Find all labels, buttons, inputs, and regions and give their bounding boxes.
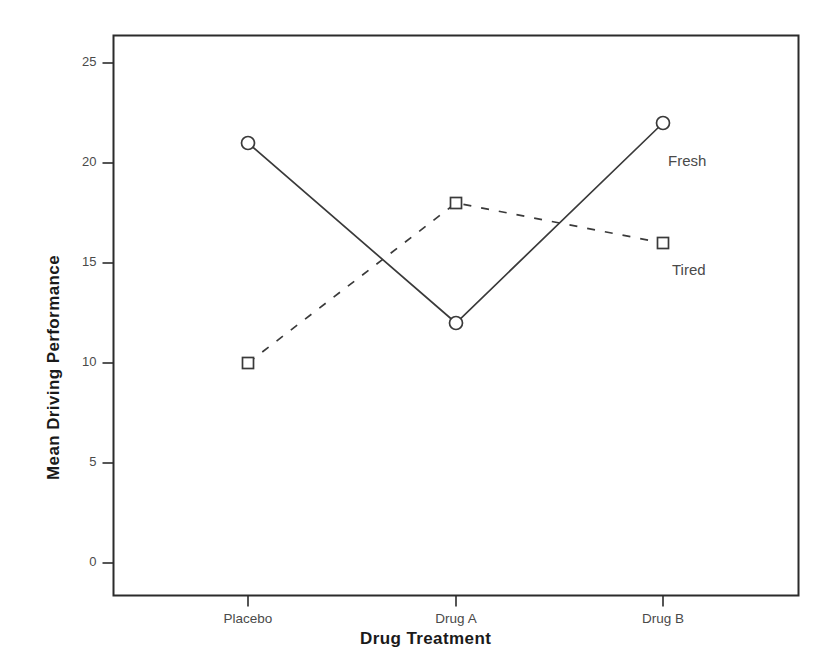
line-chart: Mean Driving Performance Drug Treatment … — [0, 0, 838, 669]
data-point-fresh-drug-b — [657, 117, 670, 130]
series-line-fresh — [248, 123, 663, 323]
x-tick-label: Drug A — [396, 611, 516, 626]
data-point-tired-placebo — [243, 358, 254, 369]
data-point-tired-drug-b — [658, 238, 669, 249]
x-tick-marks — [248, 596, 663, 607]
y-tick-marks — [103, 63, 114, 563]
series-label-fresh: Fresh — [668, 152, 706, 169]
y-tick-label: 0 — [57, 554, 97, 569]
y-tick-label: 5 — [57, 454, 97, 469]
series-line-tired — [248, 203, 663, 363]
series-markers — [242, 117, 670, 369]
plot-frame — [114, 36, 799, 596]
plot-area — [0, 0, 838, 669]
x-tick-label: Placebo — [188, 611, 308, 626]
y-tick-label: 10 — [57, 354, 97, 369]
y-tick-label: 15 — [57, 254, 97, 269]
x-tick-label: Drug B — [603, 611, 723, 626]
data-point-tired-drug-a — [451, 198, 462, 209]
data-point-fresh-placebo — [242, 137, 255, 150]
data-point-fresh-drug-a — [450, 317, 463, 330]
y-tick-label: 20 — [57, 154, 97, 169]
y-tick-label: 25 — [57, 54, 97, 69]
x-axis-title: Drug Treatment — [360, 629, 491, 649]
series-label-tired: Tired — [672, 261, 706, 278]
